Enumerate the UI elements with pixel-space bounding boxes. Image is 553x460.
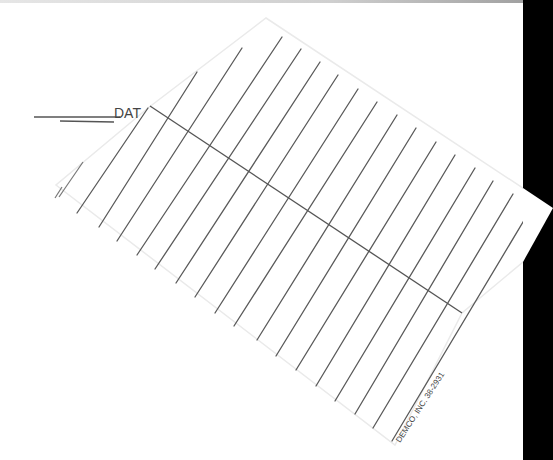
- scanned-page: DAT DEMCO, INC: [0, 0, 553, 460]
- card-corner-overlay: [0, 0, 553, 460]
